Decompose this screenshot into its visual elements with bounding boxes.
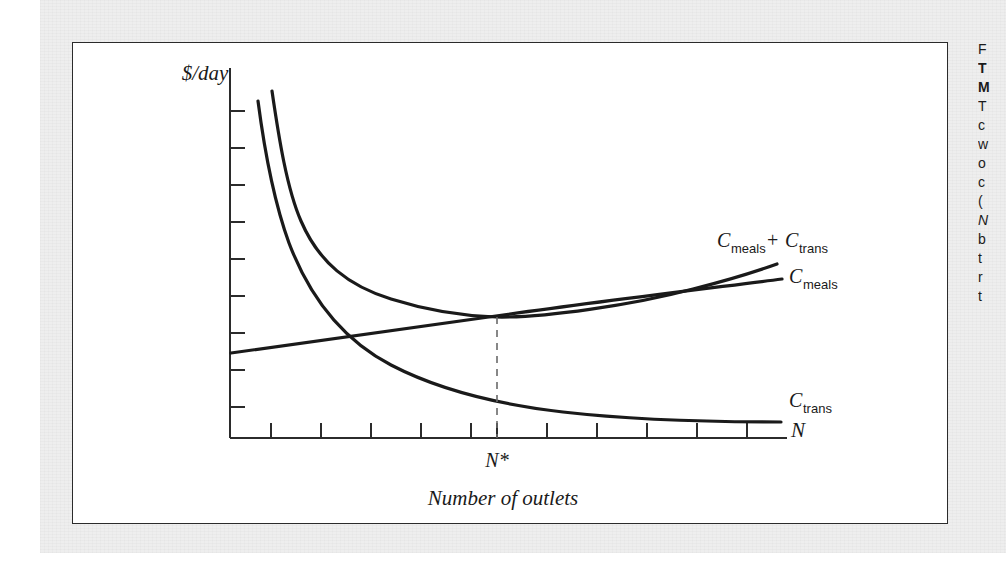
svg-text:C: C bbox=[785, 229, 799, 251]
caption-line: c bbox=[978, 116, 1006, 135]
svg-text:C: C bbox=[789, 265, 803, 287]
curve-label-meals: C meals bbox=[789, 265, 838, 292]
svg-text:meals: meals bbox=[803, 277, 838, 292]
y-axis-ticks bbox=[230, 111, 245, 407]
caption-line: r bbox=[978, 268, 1006, 287]
x-axis-symbol-N: N bbox=[790, 418, 806, 442]
caption-line: o bbox=[978, 154, 1006, 173]
svg-text:trans: trans bbox=[803, 401, 832, 416]
caption-line: w bbox=[978, 135, 1006, 154]
x-axis-ticks bbox=[271, 423, 747, 438]
optimum-label-N-star: N* bbox=[484, 449, 508, 471]
figure-frame-box: $/day N N* Number of outlets C meals + C… bbox=[72, 42, 948, 524]
caption-line: ( bbox=[978, 192, 1006, 211]
y-axis-label: $/day bbox=[182, 61, 229, 85]
curve-transport-cost bbox=[258, 101, 781, 422]
bottom-white-gutter bbox=[0, 553, 1006, 567]
caption-line: b bbox=[978, 230, 1006, 249]
caption-line: F bbox=[978, 40, 1006, 59]
caption-line: M bbox=[978, 78, 1006, 97]
curve-total-cost bbox=[272, 91, 777, 317]
caption-line: t bbox=[978, 249, 1006, 268]
caption-line: N bbox=[978, 211, 1006, 230]
svg-text:+: + bbox=[767, 229, 778, 251]
caption-line: T bbox=[978, 59, 1006, 78]
svg-text:C: C bbox=[717, 229, 731, 251]
svg-text:C: C bbox=[789, 389, 803, 411]
x-axis-label: Number of outlets bbox=[427, 486, 579, 510]
cost-vs-outlets-plot: $/day N N* Number of outlets C meals + C… bbox=[73, 43, 946, 522]
left-white-gutter bbox=[0, 0, 40, 567]
curve-label-trans: C trans bbox=[789, 389, 832, 416]
figure-caption-column: F T M T c w o c ( N b t r t bbox=[978, 40, 1006, 330]
svg-text:meals: meals bbox=[731, 241, 766, 256]
svg-text:trans: trans bbox=[799, 241, 828, 256]
caption-line: T bbox=[978, 97, 1006, 116]
curve-label-total: C meals + C trans bbox=[717, 229, 828, 256]
caption-line: t bbox=[978, 287, 1006, 306]
page-canvas: $/day N N* Number of outlets C meals + C… bbox=[0, 0, 1006, 567]
caption-line: c bbox=[978, 173, 1006, 192]
